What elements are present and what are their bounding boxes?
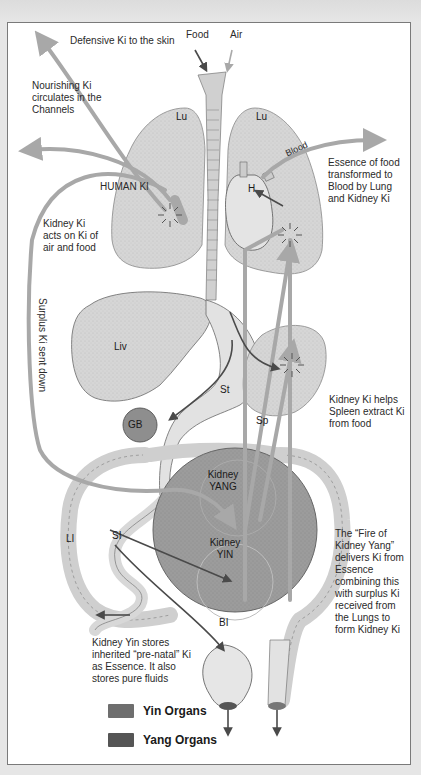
organ-label-small-intestine: SI xyxy=(112,530,121,542)
label-kidney-ki-acts: Kidney Ki acts on Ki of air and food xyxy=(43,218,103,254)
label-fire-kidney-yang: The “Fire of Kidney Yang” delivers Ki fr… xyxy=(335,528,411,636)
legend-label-yin: Yin Organs xyxy=(143,704,207,718)
organ-label-bladder: BI xyxy=(219,617,228,629)
label-kidney-yin-stores: Kidney Yin stores inherited “pre-natal” … xyxy=(92,637,192,685)
label-nourishing-ki: Nourishing Ki circulates in the Channels xyxy=(32,80,117,116)
organ-label-gall-bladder: GB xyxy=(128,419,142,431)
arrow-food xyxy=(195,50,205,68)
organ-label-spleen: Sp xyxy=(256,415,268,427)
label-essence-blood: Essence of food transformed to Blood by … xyxy=(328,157,410,205)
label-air: Air xyxy=(230,29,242,41)
label-human-ki: HUMAN KI xyxy=(100,181,149,193)
legend-swatch-yang xyxy=(108,733,134,747)
legend-yin-organs: Yin Organs xyxy=(108,704,207,718)
organ-label-stomach: St xyxy=(220,384,229,396)
label-defensive-ki: Defensive Ki to the skin xyxy=(70,35,175,47)
organ-label-large-intestine: LI xyxy=(66,533,74,545)
organ-label-lung-right: Lu xyxy=(256,111,267,123)
liver-organ xyxy=(72,292,212,401)
legend-yang-organs: Yang Organs xyxy=(108,733,217,747)
organ-label-liver: Liv xyxy=(114,341,127,353)
label-surplus-ki: Surplus Ki sent down xyxy=(36,298,48,392)
label-kidney-ki-helps: Kidney Ki helps Spleen extract Ki from f… xyxy=(329,394,409,430)
organ-label-heart: H xyxy=(248,183,255,195)
spleen-organ xyxy=(243,325,326,415)
bladder-organ xyxy=(203,645,252,708)
organ-label-lung-left: Lu xyxy=(176,111,187,123)
legend-label-yang: Yang Organs xyxy=(143,733,217,747)
arrow-air xyxy=(228,50,232,68)
organ-label-kidney-yin: Kidney YIN xyxy=(205,537,245,561)
ki-diagram-illustration xyxy=(0,0,421,775)
label-food: Food xyxy=(186,29,209,41)
legend-swatch-yin xyxy=(108,704,134,718)
organ-label-kidney-yang: Kidney YANG xyxy=(203,469,243,493)
